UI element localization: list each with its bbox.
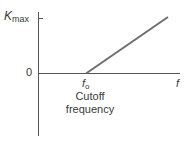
kmax-line: [86, 17, 168, 74]
cutoff-frequency-caption: Cutoff frequency: [58, 90, 122, 116]
caption-line-1: Cutoff: [58, 90, 122, 103]
x-axis-label: f: [176, 77, 179, 89]
y-zero-label: 0: [26, 66, 32, 78]
figure-canvas: Kmax 0 fo f Cutoff frequency: [0, 0, 189, 145]
caption-line-2: frequency: [58, 103, 122, 116]
cutoff-frequency-symbol: fo: [82, 77, 90, 91]
y-axis-label: Kmax: [4, 9, 29, 24]
